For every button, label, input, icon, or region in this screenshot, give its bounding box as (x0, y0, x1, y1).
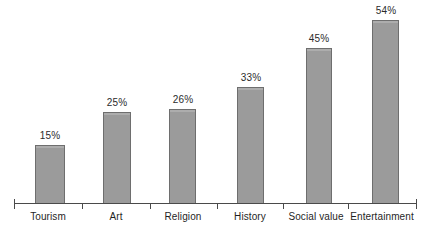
bar-tourism (35, 145, 65, 204)
bar-highlight (104, 113, 130, 115)
value-label-art: 25% (87, 97, 147, 108)
bar-highlight (36, 146, 64, 148)
bar-highlight (170, 110, 195, 112)
bar-entertainment (372, 20, 399, 204)
axis-tick-0 (14, 204, 15, 209)
bar-highlight (307, 49, 331, 51)
axis-tick-4 (283, 204, 284, 209)
axis-end-cap-right (416, 199, 417, 203)
bar-history (237, 87, 264, 204)
value-label-entertainment: 54% (356, 5, 416, 16)
bar-chart: 15% 25% 26% 33% 45% 54% Tourism Art Reli… (0, 0, 430, 235)
axis-tick-6 (416, 204, 417, 209)
value-label-history: 33% (221, 72, 281, 83)
category-label-entertainment: Entertainment (340, 211, 424, 223)
axis-tick-3 (217, 204, 218, 209)
axis-end-cap-left (14, 199, 15, 203)
value-label-social-value: 45% (289, 33, 349, 44)
x-axis-line (14, 203, 417, 204)
plot-area: 15% 25% 26% 33% 45% 54% Tourism Art Reli… (0, 0, 430, 235)
bar-art (103, 112, 131, 204)
value-label-religion: 26% (153, 94, 213, 105)
bar-highlight (238, 88, 263, 90)
axis-tick-2 (150, 204, 151, 209)
axis-tick-1 (82, 204, 83, 209)
bar-highlight (373, 21, 398, 23)
bar-social-value (306, 48, 332, 204)
bar-religion (169, 109, 196, 204)
value-label-tourism: 15% (20, 130, 80, 141)
axis-tick-5 (348, 204, 349, 209)
